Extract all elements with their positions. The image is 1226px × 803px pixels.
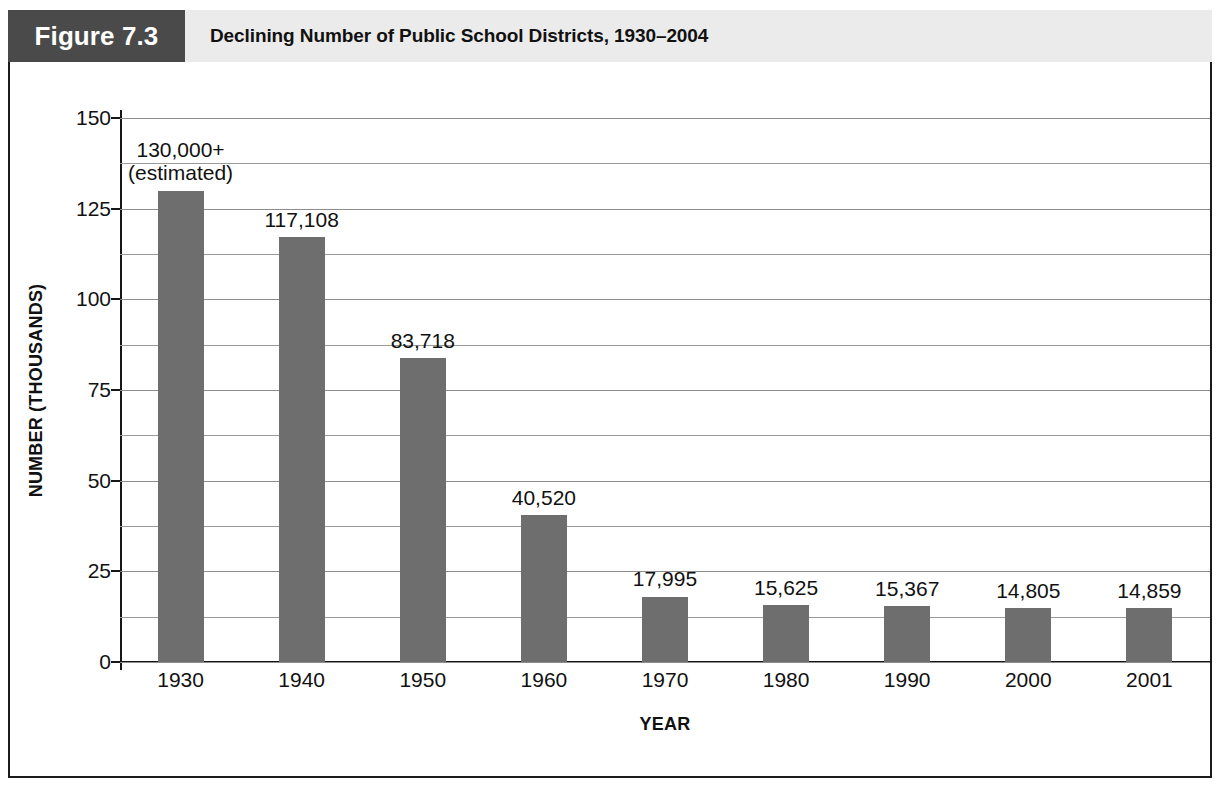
y-axis-tick-label: 100 — [76, 287, 111, 311]
bar-group: 40,520 — [483, 118, 604, 662]
x-axis-tick-label: 1990 — [884, 668, 931, 692]
bar-value-primary: 14,805 — [996, 579, 1060, 603]
y-axis-tick-label: 50 — [88, 469, 111, 493]
bar-value-primary: 17,995 — [633, 567, 697, 591]
bars-layer: 130,000+(estimated)117,10883,71840,52017… — [120, 118, 1210, 662]
figure-header: Figure 7.3 Declining Number of Public Sc… — [8, 10, 1212, 62]
bar-value-label: 83,718 — [391, 329, 455, 353]
bar-value-primary: 83,718 — [391, 329, 455, 353]
y-axis-tick-mark — [111, 480, 120, 482]
y-axis-tick-mark — [111, 661, 120, 663]
bar-value-primary: 15,625 — [754, 576, 818, 600]
bar-value-primary: 14,859 — [1117, 579, 1181, 603]
x-axis-title: YEAR — [120, 714, 1210, 735]
bar — [884, 606, 930, 662]
plot-area: 0255075100125150 130,000+(estimated)117,… — [120, 118, 1210, 662]
y-axis-tick-label: 0 — [99, 650, 111, 674]
y-axis-title-label: NUMBER (THOUSANDS) — [27, 283, 48, 497]
y-axis-tick-label: 150 — [76, 106, 111, 130]
x-axis-tick-label: 2000 — [1005, 668, 1052, 692]
figure-number-label: Figure 7.3 — [35, 21, 159, 52]
y-axis-tick-label: 75 — [88, 378, 111, 402]
figure-title-band: Declining Number of Public School Distri… — [185, 10, 1212, 62]
x-axis-tick-label: 2001 — [1126, 668, 1173, 692]
bar-group: 17,995 — [604, 118, 725, 662]
y-axis-tick-mark — [111, 389, 120, 391]
bar-value-primary: 15,367 — [875, 577, 939, 601]
y-axis-tick-label: 125 — [76, 197, 111, 221]
bar-group: 117,108 — [241, 118, 362, 662]
x-axis-tick-label: 1950 — [399, 668, 446, 692]
x-axis-tick-label: 1980 — [763, 668, 810, 692]
bar — [1005, 608, 1051, 662]
bar-value-label: 117,108 — [264, 208, 338, 232]
bar — [763, 605, 809, 662]
figure-title: Declining Number of Public School Distri… — [210, 25, 708, 47]
figure-number-box: Figure 7.3 — [8, 10, 185, 62]
y-axis-title: NUMBER (THOUSANDS) — [24, 118, 50, 662]
bar-group: 15,625 — [726, 118, 847, 662]
bar-value-label: 130,000+(estimated) — [128, 138, 233, 185]
x-axis-ticks: 193019401950196019701980199020002001 — [120, 668, 1210, 708]
bar-value-label: 14,859 — [1117, 579, 1181, 603]
bar-group: 15,367 — [847, 118, 968, 662]
figure-frame: NUMBER (THOUSANDS) 0255075100125150 130,… — [8, 62, 1212, 778]
bar — [642, 597, 688, 662]
y-axis-tick-mark — [111, 117, 120, 119]
x-axis-tick-label: 1970 — [642, 668, 689, 692]
bar-value-primary: 117,108 — [264, 208, 338, 232]
bar-value-primary: 40,520 — [512, 486, 576, 510]
bar — [1126, 608, 1172, 662]
x-axis-tick-label: 1940 — [278, 668, 325, 692]
bar-chart: NUMBER (THOUSANDS) 0255075100125150 130,… — [10, 62, 1214, 778]
bar-group: 14,859 — [1089, 118, 1210, 662]
bar-value-label: 17,995 — [633, 567, 697, 591]
y-axis-tick-mark — [111, 298, 120, 300]
bar — [400, 358, 446, 662]
bar — [521, 515, 567, 662]
x-axis-tick-label: 1930 — [157, 668, 204, 692]
y-axis-tick-label: 25 — [88, 559, 111, 583]
bar-value-label: 40,520 — [512, 486, 576, 510]
bar-value-secondary: (estimated) — [128, 161, 233, 185]
bar-value-primary: 130,000+ — [128, 138, 233, 162]
y-axis-tick-mark — [111, 570, 120, 572]
bar — [158, 191, 204, 663]
bar-value-label: 15,367 — [875, 577, 939, 601]
bar-value-label: 15,625 — [754, 576, 818, 600]
bar-group: 83,718 — [362, 118, 483, 662]
source-note — [10, 790, 1010, 802]
bar-group: 14,805 — [968, 118, 1089, 662]
y-axis-tick-mark — [111, 208, 120, 210]
bar-value-label: 14,805 — [996, 579, 1060, 603]
gridline-major — [120, 662, 1210, 663]
bar — [279, 237, 325, 662]
x-axis-tick-label: 1960 — [521, 668, 568, 692]
bar-group: 130,000+(estimated) — [120, 118, 241, 662]
